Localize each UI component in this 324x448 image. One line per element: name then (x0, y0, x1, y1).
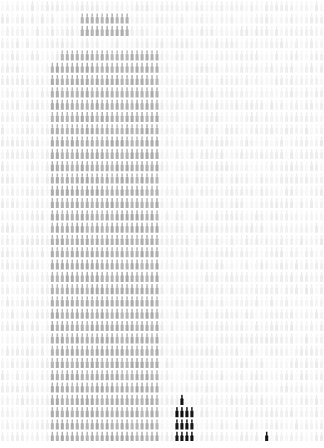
glyph-mosaic-canvas (0, 0, 324, 448)
mosaic-stage: ASCII Glyph Mosaic skyscraper-silhouette… (0, 0, 324, 448)
